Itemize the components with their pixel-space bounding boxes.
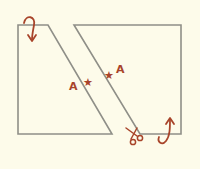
svg-text:★: ★ <box>104 69 114 82</box>
parallelogram-cut-diagram: ★ ★ A A <box>0 0 200 169</box>
rotate-arrow-top-left-icon <box>24 17 36 41</box>
star-icon: ★ <box>104 69 114 82</box>
scissors-icon <box>126 128 143 145</box>
svg-text:★: ★ <box>83 76 93 89</box>
star-icon: ★ <box>83 76 93 89</box>
diagram-canvas: ★ ★ A A <box>0 0 200 169</box>
point-label-a-left: A <box>69 80 78 93</box>
point-label-a-right: A <box>116 63 125 76</box>
rotate-arrow-bottom-right-icon <box>159 118 174 143</box>
